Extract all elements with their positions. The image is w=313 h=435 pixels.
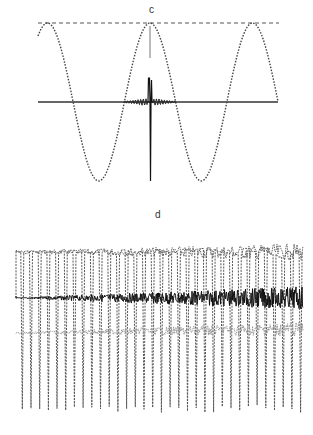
dark-noisy-band	[16, 287, 303, 309]
panel-d-chart	[0, 0, 313, 435]
gray-noisy-band	[16, 323, 303, 336]
